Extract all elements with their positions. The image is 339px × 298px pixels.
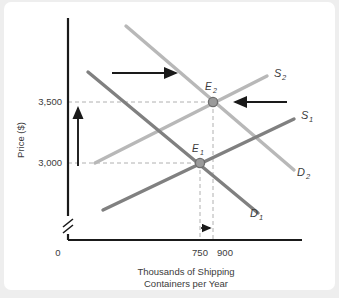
x-tick-0: 0 [55, 247, 60, 258]
x-tick-labels: 0 750 900 [55, 247, 233, 258]
curve-label-s1-sub: 1 [309, 115, 313, 124]
equilibrium-point-e2[interactable] [208, 97, 217, 106]
axes [63, 18, 302, 240]
x-axis-title: Thousands of Shipping Containers per Yea… [137, 266, 234, 289]
chart-page: 3,500 3,000 0 750 900 Price ($) Thousand… [0, 0, 339, 298]
curve-label-s2: S 2 [274, 67, 287, 82]
curve-label-d1-text: D [250, 207, 258, 219]
curve-label-s1: S 1 [301, 109, 313, 124]
equilibrium-label-e1: E 1 [192, 143, 204, 156]
y-tick-3000: 3,000 [38, 157, 62, 168]
supply-demand-chart: 3,500 3,000 0 750 900 Price ($) Thousand… [0, 0, 339, 298]
guide-lines [68, 102, 213, 240]
x-tick-750: 750 [192, 247, 208, 258]
curve-label-s1-text: S [301, 109, 309, 121]
x-axis-title-line1: Thousands of Shipping [137, 266, 234, 277]
equilibrium-label-e1-text: E [192, 143, 199, 154]
x-axis-title-line2: Containers per Year [144, 278, 228, 289]
curve-label-d1-sub: 1 [259, 213, 263, 222]
axis-break-icon [63, 219, 73, 233]
y-axis-title: Price ($) [15, 122, 26, 158]
equilibrium-point-e1[interactable] [195, 158, 204, 167]
y-tick-3500: 3,500 [38, 96, 62, 107]
equilibrium-label-e2-text: E [205, 81, 212, 92]
curve-label-s2-text: S [274, 67, 282, 79]
curve-label-d2-sub: 2 [305, 172, 311, 181]
curve-label-d2-text: D [297, 166, 305, 178]
curve-labels: S 2 S 1 D 2 D 1 [250, 67, 313, 222]
curve-label-d1: D 1 [250, 207, 263, 222]
y-tick-labels: 3,500 3,000 [38, 96, 62, 168]
x-tick-900: 900 [217, 247, 233, 258]
curves [88, 26, 294, 213]
curve-label-d2: D 2 [297, 166, 311, 181]
equilibrium-label-e1-sub: 1 [200, 149, 204, 156]
equilibrium-label-e2-sub: 2 [212, 87, 217, 94]
equilibrium-label-e2: E 2 [205, 81, 217, 94]
curve-label-s2-sub: 2 [281, 73, 287, 82]
